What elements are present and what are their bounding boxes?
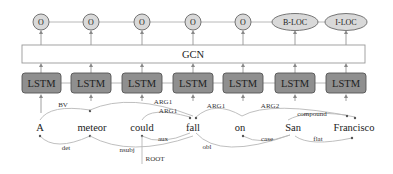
- gcn-layer: GCN: [22, 45, 365, 63]
- tag-label: O: [38, 18, 44, 27]
- tag-node: O: [185, 14, 201, 30]
- edge-label-obl: obl: [203, 143, 212, 151]
- lstm-label: LSTM: [281, 78, 310, 89]
- edge-label-case: case: [261, 135, 273, 143]
- gcn-lstm-diagram: O O O O O B-LOC: [0, 0, 393, 174]
- edge-label-compound: compound: [297, 110, 327, 118]
- tag-label: O: [190, 18, 196, 27]
- edge-label-arg1: ARG1: [154, 98, 173, 106]
- word-token: fall: [186, 122, 200, 133]
- lstm-cell: LSTM: [223, 73, 263, 93]
- lstm-label: LSTM: [332, 78, 361, 89]
- word-token: San: [285, 122, 302, 133]
- edge-label-flat: flat: [313, 135, 322, 143]
- syntactic-arcs: det nsubj aux obl case flat ROOT: [39, 133, 353, 164]
- lstm-cell: LSTM: [275, 73, 315, 93]
- edge-label-aux: aux: [158, 135, 169, 143]
- arc-det: [40, 136, 90, 144]
- tag-label: B-LOC: [283, 18, 307, 27]
- word-token: could: [130, 122, 154, 133]
- tag-label: O: [88, 18, 94, 27]
- edge-label-arg1: ARG1: [207, 102, 226, 110]
- tag-node: O: [235, 14, 251, 30]
- sentence: A meteor could fall on San Francisco: [36, 122, 374, 133]
- root-label: ROOT: [145, 155, 165, 163]
- lstm-cell: LSTM: [122, 73, 162, 93]
- word-token: meteor: [77, 122, 107, 133]
- lstm-cell: LSTM: [71, 73, 111, 93]
- edge-label-nsubj: nsubj: [119, 146, 134, 154]
- lstm-cell: LSTM: [22, 73, 61, 93]
- lstm-label: LSTM: [77, 78, 106, 89]
- tag-node: B-LOC: [272, 14, 318, 31]
- tag-node: I-LOC: [325, 14, 367, 31]
- word-token: on: [235, 122, 246, 133]
- tag-node: O: [83, 14, 99, 30]
- word-token: A: [36, 122, 44, 133]
- lstm-label: LSTM: [179, 78, 208, 89]
- lstm-to-gcn-arrows: [41, 65, 346, 73]
- tag-layer: O O O O O B-LOC: [33, 14, 367, 31]
- tag-label: O: [139, 18, 145, 27]
- arc-flat: [295, 136, 352, 142]
- gcn-label: GCN: [182, 49, 205, 60]
- tag-node: O: [33, 14, 49, 30]
- lstm-label: LSTM: [128, 78, 157, 89]
- arc-bv: [40, 108, 90, 120]
- lstm-label: LSTM: [229, 78, 258, 89]
- tag-node: O: [134, 14, 150, 30]
- tag-label: O: [240, 18, 246, 27]
- tag-label: I-LOC: [335, 18, 356, 27]
- lstm-cell: LSTM: [326, 73, 366, 93]
- edge-label-arg1: ARG1: [159, 107, 178, 115]
- edge-label-arg2: ARG2: [261, 102, 280, 110]
- gcn-to-tag-arrows: [41, 32, 346, 45]
- lstm-layer: LSTM LSTM LSTM LSTM LSTM LSTM: [22, 73, 366, 93]
- semantic-arcs: BV ARG1 ARG1 ARG1 ARG2 compound: [40, 98, 356, 120]
- edge-label-bv: BV: [58, 101, 68, 109]
- word-token: Francisco: [334, 122, 375, 133]
- lstm-cell: LSTM: [173, 73, 213, 93]
- edge-label-det: det: [62, 144, 71, 152]
- lstm-label: LSTM: [27, 78, 56, 89]
